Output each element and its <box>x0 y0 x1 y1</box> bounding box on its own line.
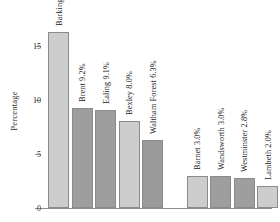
bar-item[interactable]: Lambeth 2.0% <box>257 24 278 208</box>
bar-item[interactable]: Bexley 8.0% <box>119 24 140 208</box>
y-tick-label: 10 <box>9 95 41 104</box>
bar-item[interactable]: Barking and Dagenham 16.3% <box>48 24 69 208</box>
plot-area: Barking and Dagenham 16.3%Brent 9.2%Eali… <box>41 0 280 222</box>
bar-rect[interactable] <box>257 186 278 208</box>
x-axis-baseline <box>41 208 272 209</box>
bar-label: Brent 9.2% <box>78 64 87 103</box>
bar-item[interactable]: Ealing 9.1% <box>95 24 116 208</box>
bar-rect[interactable] <box>210 176 231 208</box>
bar-label: Barking and Dagenham 16.3% <box>54 0 63 26</box>
bar-label: Wandsworth 3.0% <box>216 107 225 170</box>
bar-item[interactable]: Brent 9.2% <box>72 24 93 208</box>
bar-label: Barnet 3.0% <box>193 127 202 170</box>
bar-item[interactable]: Barnet 3.0% <box>187 24 208 208</box>
bar-item[interactable]: Westminster 2.8% <box>234 24 255 208</box>
bar-rect[interactable] <box>72 108 93 208</box>
bar-label: Lambeth 2.0% <box>263 130 272 180</box>
y-tick-label: 5 <box>9 149 41 158</box>
bar-label: Westminster 2.8% <box>240 109 249 171</box>
bar-rect[interactable] <box>48 32 69 208</box>
bar-rect[interactable] <box>95 110 116 208</box>
bar-chart: Percentage 051015 Barking and Dagenham 1… <box>0 0 280 222</box>
bar-label: Ealing 9.1% <box>101 61 110 103</box>
bar-item[interactable]: Waltham Forest 6.3% <box>142 24 163 208</box>
bar-label: Waltham Forest 6.3% <box>148 60 157 134</box>
y-tick-label: 0 <box>9 204 41 213</box>
bar-label: Bexley 8.0% <box>125 71 134 115</box>
y-axis-title: Percentage <box>6 0 22 222</box>
bar-rect[interactable] <box>119 121 140 208</box>
bar-rect[interactable] <box>234 178 255 208</box>
bar-rect[interactable] <box>187 176 208 208</box>
y-tick-label: 15 <box>9 41 41 50</box>
bar-rect[interactable] <box>142 140 163 208</box>
bar-item[interactable]: Wandsworth 3.0% <box>210 24 231 208</box>
